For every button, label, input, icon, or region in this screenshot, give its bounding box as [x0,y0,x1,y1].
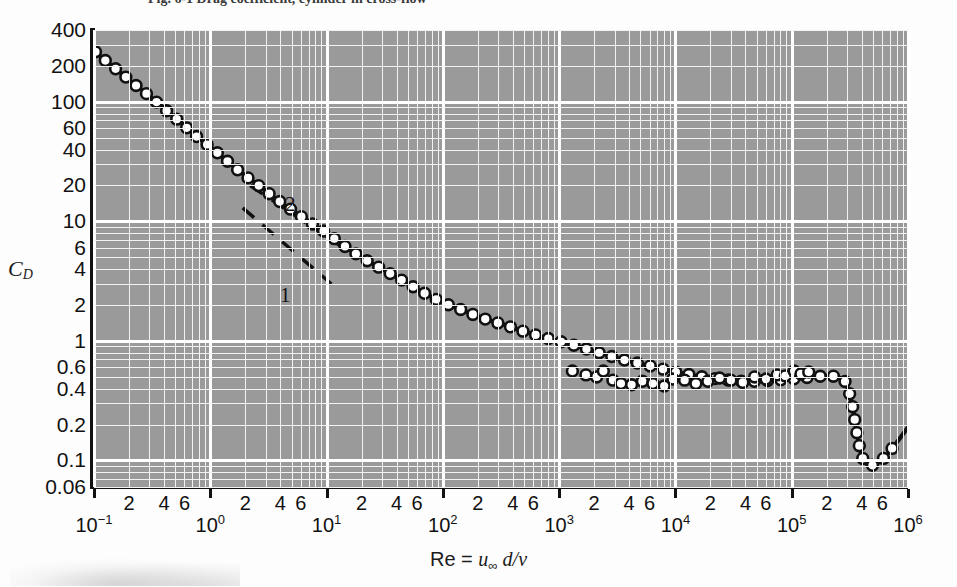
gridline-horizontal [94,164,908,165]
y-axis-title: CD [8,256,33,283]
y-tick-label: 100 [51,90,86,114]
gridline-horizontal [94,466,908,467]
gridline-horizontal [94,472,908,473]
gridline-horizontal [94,30,908,31]
y-tick-label: 0.4 [57,377,86,401]
y-tick-label: 0.1 [57,448,86,472]
gridline-vertical [664,30,665,487]
data-point-marker [852,427,863,438]
gridline-vertical [266,30,267,487]
gridline-vertical [757,30,758,487]
gridline-vertical [774,30,775,487]
figure-root: Fig. 6-1 Drag coefficient, cylinder in c… [0,0,957,587]
gridline-horizontal [94,233,908,234]
y-tick-label: 4 [74,257,86,281]
gridline-horizontal [94,353,908,354]
x-tick-label-major: 102 [428,512,457,537]
slope-annotation-1: 1 [280,283,291,308]
gridline-horizontal [94,459,908,462]
gridline-horizontal [94,101,908,104]
x-axis-major-tick-labels: 10−1100101102103104105106 [0,512,957,546]
x-tick-mark [442,489,445,498]
x-tick-mark [791,489,794,498]
gridline-vertical [847,30,848,487]
data-point-marker [737,377,748,388]
gridline-vertical [408,30,409,487]
data-point-marker [714,373,725,384]
gridline-vertical [438,30,439,487]
data-point-marker [518,326,529,337]
gridline-horizontal [94,248,908,249]
gridline-vertical [205,30,206,487]
gridline-vertical [478,30,479,487]
gridline-vertical [897,30,898,487]
x-tick-label-major: 105 [777,512,806,537]
gridline-vertical [326,30,329,487]
gridline-vertical [786,30,787,487]
gridline-horizontal [94,346,908,347]
gridline-vertical [425,30,426,487]
x-tick-mark [674,489,677,498]
scan-artifact-smudge [10,558,240,586]
gridline-vertical [558,30,561,487]
y-tick-label: 2 [74,293,86,317]
gridline-vertical [533,30,534,487]
data-point-marker [844,388,855,399]
data-point-marker [131,80,142,91]
x-tick-label-major: 101 [312,512,341,537]
gridline-vertical [650,30,651,487]
gridline-vertical [149,30,150,487]
data-point-marker [581,370,592,381]
x-tick-label-major: 104 [661,512,690,537]
slope-annotation-2: 2 [285,192,296,217]
gridline-horizontal [94,479,908,480]
data-point-marker [505,321,516,332]
gridline-vertical [175,30,176,487]
gridline-vertical [674,30,677,487]
gridline-vertical [209,30,212,487]
gridline-vertical [827,30,828,487]
gridline-vertical [309,30,310,487]
gridline-vertical [710,30,711,487]
x-tick-mark [558,489,561,498]
x-tick-label-major: 10−1 [75,512,112,537]
gridline-vertical [513,30,514,487]
data-point-marker [854,440,865,451]
gridline-vertical [524,30,525,487]
data-point-marker [480,314,491,325]
data-point-markers [94,46,898,470]
gridline-horizontal [94,150,908,151]
gridline-vertical [292,30,293,487]
gridline-vertical [498,30,499,487]
gridline-vertical [882,30,883,487]
gridline-horizontal [94,185,908,186]
gridline-vertical [907,30,910,487]
data-point-marker [658,364,669,375]
y-tick-label: 400 [51,18,86,42]
y-tick-label: 1 [74,329,86,353]
gridline-horizontal [94,138,908,139]
x-tick-label-major: 106 [893,512,922,537]
gridline-vertical [640,30,641,487]
gridline-vertical [417,30,418,487]
gridline-vertical [554,30,555,487]
gridline-horizontal [94,389,908,390]
y-tick-label: 40 [63,138,86,162]
data-point-marker [100,55,111,66]
x-axis-title-nu: ν [518,548,527,570]
y-tick-label: 0.2 [57,413,86,437]
data-point-marker [232,164,243,175]
y-axis-title-main: C [8,256,23,281]
gridline-vertical [548,30,549,487]
gridline-vertical [382,30,383,487]
gridline-horizontal [94,487,908,488]
gridline-horizontal [94,269,908,270]
gridline-horizontal [94,284,908,285]
data-point-marker [530,330,541,341]
gridline-vertical [791,30,794,487]
gridline-vertical [129,30,130,487]
gridline-vertical [280,30,281,487]
gridline-horizontal [94,107,908,108]
gridline-vertical [862,30,863,487]
x-tick-label-major: 103 [544,512,573,537]
